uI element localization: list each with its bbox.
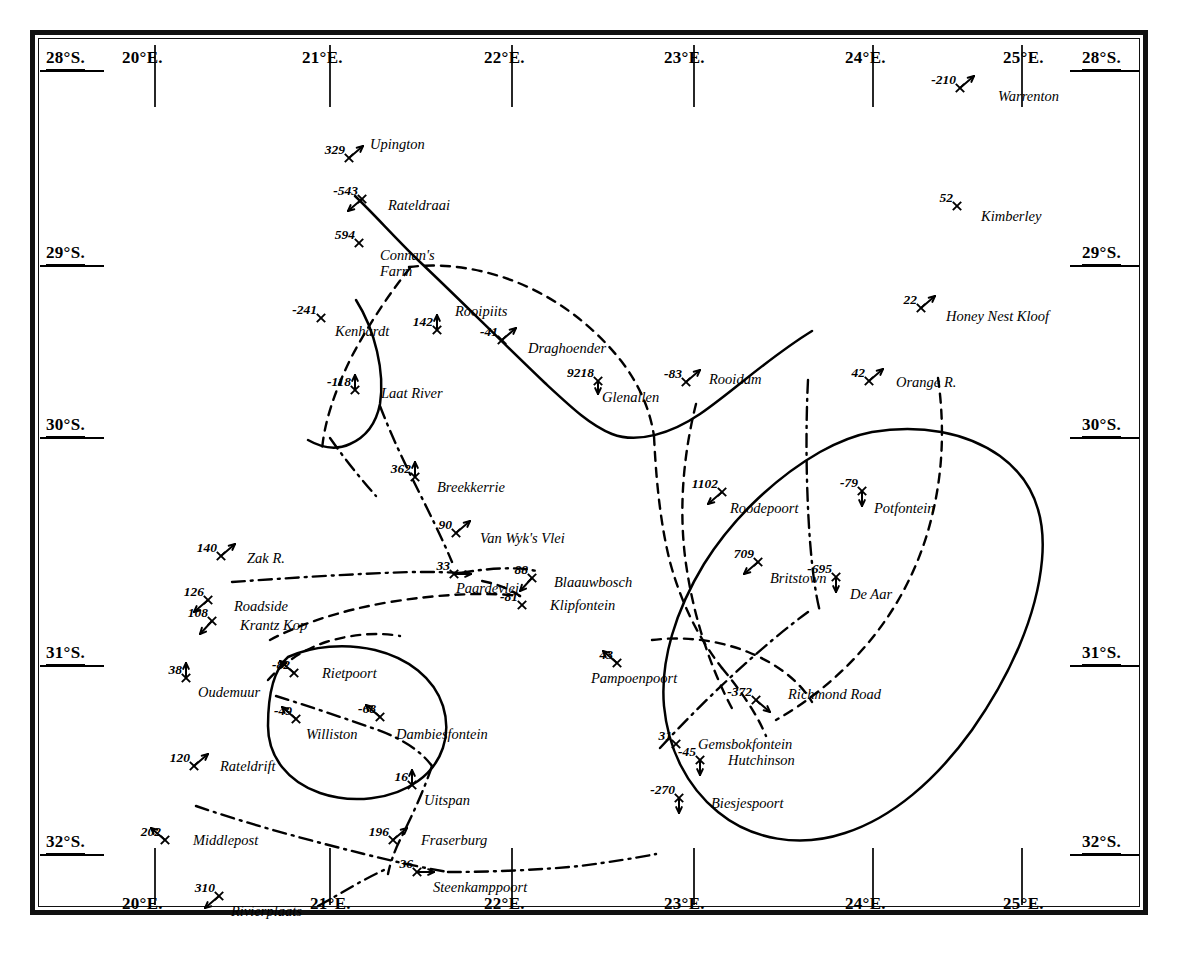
- station-name: Rateldrift: [220, 759, 276, 775]
- station-name: Steenkamppoort: [433, 880, 527, 896]
- station-value: 38: [146, 662, 182, 678]
- station-name: Zak R.: [247, 551, 285, 567]
- station-name: Kimberley: [981, 209, 1041, 225]
- longitude-label-top: 20°E.: [122, 48, 163, 68]
- station-value: -68: [340, 701, 376, 717]
- latitude-label-right: 31°S.: [1082, 643, 1121, 666]
- station-name: Rooidam: [709, 372, 761, 388]
- longitude-label-top: 25°E.: [1003, 48, 1044, 68]
- station-value: 52: [917, 190, 953, 206]
- station-value: 202: [125, 824, 161, 840]
- station-name: Fraserburg: [421, 833, 487, 849]
- station-name: Van Wyk's Vlei: [480, 531, 565, 547]
- station-value: -210: [920, 72, 956, 88]
- longitude-label-top: 22°E.: [484, 48, 525, 68]
- station-value: -79: [822, 475, 858, 491]
- station-value: 108: [172, 605, 208, 621]
- station-value: -82: [254, 657, 290, 673]
- station-name: Warrenton: [998, 89, 1059, 105]
- station-name: Klipfontein: [550, 598, 615, 614]
- longitude-label-top: 21°E.: [302, 48, 343, 68]
- station-value: 43: [577, 647, 613, 663]
- station-name: Pampoenpoort: [591, 671, 677, 687]
- station-value: 9218: [558, 365, 594, 381]
- station-name: Richmond Road: [788, 687, 881, 703]
- latitude-label-right: 30°S.: [1082, 415, 1121, 438]
- station-name: Gemsbokfontein: [698, 737, 792, 753]
- station-name: Roadside: [234, 599, 288, 615]
- station-name: Biesjespoort: [711, 796, 784, 812]
- station-value: 362: [375, 461, 411, 477]
- station-name: Connan'sFarm: [380, 248, 435, 279]
- station-name: Hutchinson: [728, 753, 795, 769]
- station-value: -695: [796, 561, 832, 577]
- longitude-label-bottom: 24°E.: [845, 894, 886, 914]
- station-name: Blaauwbosch: [554, 575, 632, 591]
- station-value: -81: [482, 589, 518, 605]
- station-name: Breekkerrie: [437, 480, 505, 496]
- station-value: 329: [309, 142, 345, 158]
- latitude-label-right: 29°S.: [1082, 243, 1121, 266]
- station-name: Rivierplaats: [231, 904, 302, 920]
- station-value: 33: [414, 558, 450, 574]
- station-name: Honey Nest Kloof: [946, 309, 1049, 325]
- station-value: -543: [322, 183, 358, 199]
- station-value: -241: [281, 302, 317, 318]
- station-value: -41: [462, 324, 498, 340]
- latitude-label-left: 30°S.: [46, 415, 85, 438]
- longitude-label-top: 24°E.: [845, 48, 886, 68]
- latitude-label-left: 31°S.: [46, 643, 85, 666]
- station-value: 120: [154, 750, 190, 766]
- station-value: 36: [377, 856, 413, 872]
- station-name: Krantz Kop: [240, 618, 307, 634]
- longitude-label-bottom: 21°E.: [310, 894, 351, 914]
- station-value: 140: [181, 540, 217, 556]
- station-value: 88: [492, 562, 528, 578]
- station-name: Rooipiits: [455, 304, 507, 320]
- latitude-label-right: 32°S.: [1082, 832, 1121, 855]
- map-root: 20°E.21°E.22°E.23°E.24°E.25°E.20°E.21°E.…: [0, 0, 1178, 962]
- station-value: 126: [168, 584, 204, 600]
- station-name: Roodepoort: [730, 501, 798, 517]
- station-value: 22: [881, 292, 917, 308]
- station-name: Kenhardt: [335, 324, 389, 340]
- station-value: 16: [372, 769, 408, 785]
- station-name: Draghoender: [528, 341, 606, 357]
- station-name: Upington: [370, 137, 425, 153]
- station-name: Rietpoort: [322, 666, 377, 682]
- latitude-label-left: 29°S.: [46, 243, 85, 266]
- latitude-label-left: 32°S.: [46, 832, 85, 855]
- longitude-label-top: 23°E.: [664, 48, 705, 68]
- station-value: -270: [639, 782, 675, 798]
- station-value: 90: [416, 517, 452, 533]
- station-name: Glenallen: [602, 390, 659, 406]
- station-name: Uitspan: [424, 793, 470, 809]
- station-value: 42: [829, 365, 865, 381]
- station-value: -118: [315, 374, 351, 390]
- station-value: 196: [353, 824, 389, 840]
- station-name: Oudemuur: [198, 685, 260, 701]
- station-name: Potfontein: [874, 501, 934, 517]
- station-value: -83: [646, 366, 682, 382]
- station-name: Laat River: [381, 386, 443, 402]
- station-value: 31: [636, 728, 672, 744]
- longitude-label-bottom: 20°E.: [122, 894, 163, 914]
- station-value: 1102: [682, 476, 718, 492]
- station-value: 594: [319, 227, 355, 243]
- longitude-label-bottom: 22°E.: [484, 894, 525, 914]
- station-value: 709: [718, 546, 754, 562]
- longitude-label-bottom: 23°E.: [664, 894, 705, 914]
- station-name: Dambiesfontein: [396, 727, 488, 743]
- station-value: 310: [179, 880, 215, 896]
- station-name: Orange R.: [896, 375, 956, 391]
- latitude-label-right: 28°S.: [1082, 48, 1121, 71]
- station-value: -45: [660, 744, 696, 760]
- station-value: 142: [397, 314, 433, 330]
- station-value: -49: [256, 703, 292, 719]
- station-name: Middlepost: [193, 833, 258, 849]
- latitude-label-left: 28°S.: [46, 48, 85, 71]
- map-inner-border: [38, 38, 1140, 907]
- station-value: -372: [716, 684, 752, 700]
- longitude-label-bottom: 25°E.: [1003, 894, 1044, 914]
- station-name: De Aar: [850, 587, 892, 603]
